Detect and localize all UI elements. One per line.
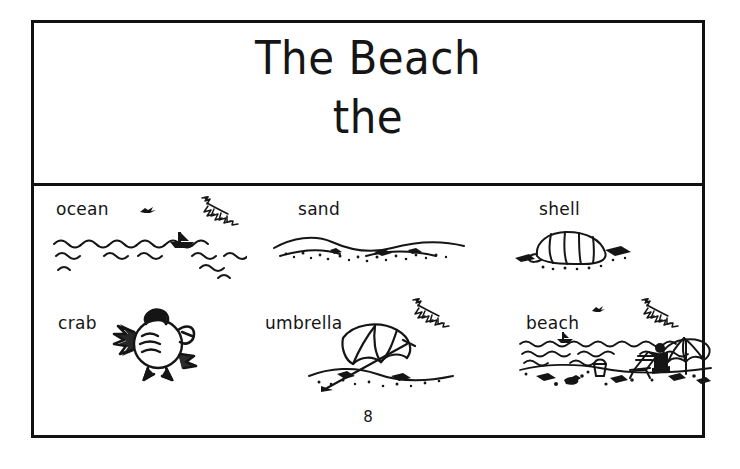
ocean-waves-sailboat-illustration <box>52 230 247 288</box>
page-subtitle: the <box>333 94 403 142</box>
beach-umbrella-illustration <box>307 316 457 396</box>
vocab-item-shell: shell <box>489 192 704 296</box>
conch-shell-illustration <box>509 226 649 276</box>
vocab-label-crab: crab <box>58 312 97 334</box>
title-band: The Beach the <box>34 23 702 186</box>
palm-frond-icon <box>634 296 682 334</box>
crab-illustration <box>108 296 208 386</box>
page-number: 8 <box>34 408 702 426</box>
page-title: The Beach <box>255 35 481 83</box>
vocabulary-band: ocean <box>34 186 702 435</box>
vocab-label-ocean: ocean <box>56 198 109 220</box>
vocab-item-crab: crab <box>34 296 264 400</box>
palm-frond-icon <box>194 194 242 232</box>
vocab-item-beach: beach <box>484 296 704 400</box>
vocabulary-row: ocean <box>34 192 702 296</box>
worksheet-page-frame: The Beach the ocean <box>31 20 705 438</box>
vocab-item-ocean: ocean <box>34 192 264 296</box>
bird-silhouette-icon <box>138 204 160 218</box>
vocab-label-shell: shell <box>539 198 580 220</box>
vocab-item-umbrella: umbrella <box>259 296 494 400</box>
sand-dune-illustration <box>270 226 470 276</box>
beach-scene-illustration <box>518 330 713 390</box>
bird-silhouette-icon <box>590 304 608 316</box>
vocab-label-sand: sand <box>298 198 340 220</box>
vocab-item-sand: sand <box>266 192 486 296</box>
vocabulary-row: crab <box>34 296 702 400</box>
sailboat-icon <box>557 332 573 343</box>
